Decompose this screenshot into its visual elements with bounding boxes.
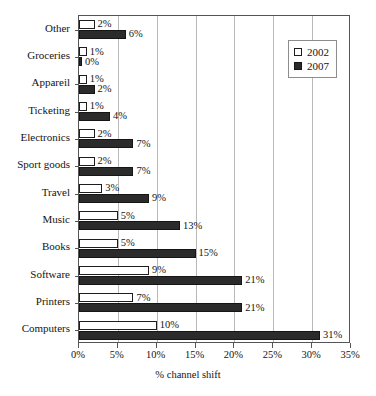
bar-2007: [79, 303, 242, 312]
x-tick-label: 25%: [263, 350, 282, 361]
bar-2002: [79, 184, 102, 193]
bar-value-label: 9%: [152, 193, 166, 204]
bar-value-label: 10%: [160, 320, 179, 331]
bar-2007: [79, 139, 133, 148]
category-label-books: Books: [42, 241, 70, 252]
x-tick-label: 35%: [340, 350, 359, 361]
legend-label: 2002: [307, 47, 329, 58]
bar-value-label: 5%: [121, 238, 135, 249]
legend: 2002 2007: [288, 40, 337, 78]
category-label-computers: Computers: [22, 323, 70, 334]
category-label-groceries: Groceries: [27, 50, 70, 61]
x-tick: [233, 343, 234, 348]
bar-line: 13%: [79, 221, 349, 230]
legend-item-2007: 2007: [294, 59, 329, 73]
category-label-music: Music: [43, 214, 71, 225]
bar-value-label: 13%: [183, 221, 202, 232]
bar-row: 5%13%: [79, 207, 349, 234]
bar-line: 3%: [79, 184, 349, 193]
x-tick: [195, 343, 196, 348]
category-label-travel: Travel: [42, 187, 70, 198]
bar-2007: [79, 249, 196, 258]
bar-value-label: 31%: [323, 330, 342, 341]
bar-row: 2%7%: [79, 125, 349, 152]
x-axis-tick-labels: 0%5%10%15%20%25%30%35%: [78, 350, 350, 364]
x-tick-label: 15%: [185, 350, 204, 361]
bar-line: 2%: [79, 129, 349, 138]
bar-value-label: 5%: [121, 211, 135, 222]
bar-2002: [79, 157, 95, 166]
bar-line: 15%: [79, 249, 349, 258]
bar-line: 6%: [79, 30, 349, 39]
x-tick: [117, 343, 118, 348]
bar-2002: [79, 129, 95, 138]
bar-2002: [79, 239, 118, 248]
bar-line: 21%: [79, 276, 349, 285]
legend-item-2002: 2002: [294, 45, 329, 59]
bar-line: 9%: [79, 266, 349, 275]
x-tick-label: 10%: [146, 350, 165, 361]
bar-row: 9%21%: [79, 262, 349, 289]
bar-2007: [79, 30, 126, 39]
bar-line: 4%: [79, 112, 349, 121]
bar-value-label: 0%: [85, 57, 99, 68]
bar-value-label: 21%: [245, 303, 264, 314]
bar-2002: [79, 266, 149, 275]
category-label-ticketing: Ticketing: [28, 105, 70, 116]
bar-value-label: 3%: [105, 183, 119, 194]
bar-line: 7%: [79, 139, 349, 148]
bar-2002: [79, 211, 118, 220]
x-tick: [78, 343, 79, 348]
bar-value-label: 2%: [98, 129, 112, 140]
bar-value-label: 6%: [129, 29, 143, 40]
legend-swatch-filled-icon: [294, 62, 302, 70]
x-tick-label: 5%: [110, 350, 124, 361]
x-tick-label: 30%: [302, 350, 321, 361]
bar-row: 10%31%: [79, 317, 349, 344]
bar-value-label: 7%: [136, 293, 150, 304]
bar-line: 7%: [79, 293, 349, 302]
bar-line: 2%: [79, 20, 349, 29]
bar-row: 7%21%: [79, 289, 349, 316]
bar-2007: [79, 194, 149, 203]
bar-line: 7%: [79, 167, 349, 176]
bar-2002: [79, 20, 95, 29]
x-tick-label: 20%: [224, 350, 243, 361]
bar-value-label: 21%: [245, 275, 264, 286]
bar-2007: [79, 221, 180, 230]
bar-2007: [79, 112, 110, 121]
bar-line: 2%: [79, 85, 349, 94]
bar-2007: [79, 276, 242, 285]
bar-row: 5%15%: [79, 235, 349, 262]
bar-value-label: 9%: [152, 265, 166, 276]
category-label-appareil: Appareil: [32, 77, 70, 88]
bar-value-label: 2%: [98, 84, 112, 95]
bar-line: 21%: [79, 303, 349, 312]
bar-value-label: 4%: [113, 111, 127, 122]
bar-line: 5%: [79, 211, 349, 220]
bar-value-label: 2%: [98, 19, 112, 30]
bar-2007: [79, 57, 82, 66]
category-label-electronics: Electronics: [21, 132, 70, 143]
bar-row: 3%9%: [79, 180, 349, 207]
x-tick: [156, 343, 157, 348]
bar-2007: [79, 331, 320, 340]
bar-line: 10%: [79, 321, 349, 330]
bar-row: 2%7%: [79, 153, 349, 180]
bar-value-label: 1%: [90, 101, 104, 112]
x-tick: [272, 343, 273, 348]
bar-2002: [79, 293, 133, 302]
bar-2007: [79, 167, 133, 176]
bar-2007: [79, 85, 95, 94]
bar-value-label: 7%: [136, 139, 150, 150]
category-axis-labels: OtherGroceriesAppareilTicketingElectroni…: [0, 15, 74, 343]
category-label-other: Other: [45, 23, 70, 34]
bar-line: 2%: [79, 157, 349, 166]
legend-label: 2007: [307, 61, 329, 72]
bar-chart: 2%6%1%0%1%2%1%4%2%7%2%7%3%9%5%13%5%15%9%…: [0, 0, 376, 396]
bar-line: 31%: [79, 331, 349, 340]
x-tick-label: 0%: [71, 350, 85, 361]
bar-value-label: 7%: [136, 166, 150, 177]
bar-2002: [79, 321, 157, 330]
category-label-sport-goods: Sport goods: [17, 159, 70, 170]
